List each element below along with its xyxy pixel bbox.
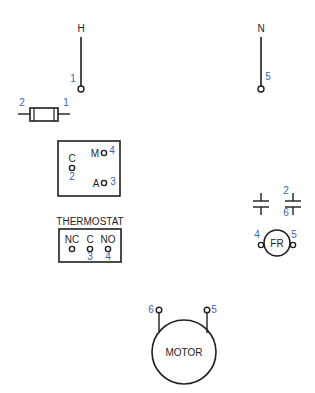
relay-contact: 2 6	[253, 185, 301, 218]
thermostat-nc-terminal-icon[interactable]	[69, 246, 74, 251]
hot-terminal-number: 1	[70, 73, 76, 84]
selector-common-label: C	[68, 153, 75, 164]
selector-manual-label: M	[91, 148, 99, 159]
thermostat: THERMOSTAT NC C NO 3 4	[56, 216, 123, 262]
fuse-icon: 2 1	[18, 97, 70, 121]
contact-symbol-left-icon	[253, 193, 269, 215]
thermostat-no-terminal-number: 4	[105, 251, 111, 262]
neutral-label: N	[257, 23, 264, 34]
fan-relay-coil: FR 4 5	[254, 229, 297, 256]
selector-auto-terminal-icon[interactable]	[101, 180, 106, 185]
selector-switch: C 2 M 4 A 3	[58, 141, 120, 196]
fan-relay-right-terminal-icon[interactable]	[290, 242, 295, 247]
thermostat-c-label: C	[86, 234, 93, 245]
motor-right-terminal-icon[interactable]	[204, 307, 210, 313]
selector-common-terminal-number: 2	[69, 171, 75, 182]
hot-supply-line: H 1	[70, 23, 84, 92]
thermostat-c-terminal-number: 3	[87, 251, 93, 262]
motor-label: MOTOR	[165, 347, 202, 358]
neutral-supply-line: N 5	[257, 23, 271, 92]
contact-bottom-terminal-number: 6	[283, 207, 289, 218]
neutral-terminal-icon[interactable]	[258, 86, 264, 92]
fan-relay-label: FR	[270, 238, 283, 249]
hot-label: H	[77, 23, 84, 34]
selector-auto-terminal-number: 3	[110, 176, 116, 187]
motor-left-terminal-number: 6	[148, 304, 154, 315]
thermostat-no-label: NO	[101, 234, 116, 245]
fuse-right-terminal-number: 1	[63, 97, 69, 108]
selector-manual-terminal-icon[interactable]	[101, 150, 106, 155]
hot-terminal-icon[interactable]	[78, 86, 84, 92]
motor-left-terminal-icon[interactable]	[156, 307, 162, 313]
contact-top-terminal-number: 2	[283, 185, 289, 196]
motor: MOTOR 6 5	[148, 304, 217, 384]
selector-common-terminal-icon[interactable]	[69, 165, 74, 170]
wiring-diagram: H 1 N 5 2 1 C 2 M 4 A 3 THERMOSTAT N	[0, 0, 315, 393]
fan-relay-left-terminal-number: 4	[254, 229, 260, 240]
selector-manual-terminal-number: 4	[109, 145, 115, 156]
fan-relay-left-terminal-icon[interactable]	[258, 242, 263, 247]
thermostat-title: THERMOSTAT	[56, 216, 123, 227]
motor-right-terminal-number: 5	[211, 304, 217, 315]
selector-auto-label: A	[93, 178, 100, 189]
fuse-left-terminal-number: 2	[19, 97, 25, 108]
fan-relay-right-terminal-number: 5	[291, 229, 297, 240]
thermostat-nc-label: NC	[65, 234, 79, 245]
neutral-terminal-number: 5	[265, 71, 271, 82]
